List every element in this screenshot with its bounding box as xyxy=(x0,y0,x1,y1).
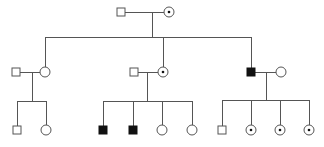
female-unaffected-symbol xyxy=(41,125,51,135)
female-unaffected-symbol xyxy=(40,67,50,77)
male-unaffected-symbol xyxy=(218,126,226,134)
carrier-dot-icon xyxy=(162,71,165,74)
male-unaffected-symbol xyxy=(13,126,21,134)
sibship-gen3-left xyxy=(13,101,51,135)
sibship-gen3-middle xyxy=(99,101,197,135)
carrier-dot-icon xyxy=(168,11,171,14)
couple-gen2-left xyxy=(12,67,50,101)
female-unaffected-symbol xyxy=(187,125,197,135)
carrier-dot-icon xyxy=(308,129,311,132)
male-unaffected-symbol xyxy=(12,68,20,76)
generation-1 xyxy=(117,7,174,37)
male-affected-symbol xyxy=(129,126,137,134)
male-unaffected-symbol xyxy=(117,8,125,16)
carrier-dot-icon xyxy=(250,129,253,132)
male-unaffected-symbol xyxy=(130,68,138,76)
female-unaffected-symbol xyxy=(157,125,167,135)
male-affected-symbol xyxy=(247,68,255,76)
couple-gen2-middle xyxy=(130,67,168,101)
couple-gen2-right xyxy=(247,67,286,100)
sibship-gen2 xyxy=(45,37,251,68)
sibship-gen3-right xyxy=(218,100,314,135)
carrier-dot-icon xyxy=(279,129,282,132)
male-affected-symbol xyxy=(99,126,107,134)
female-unaffected-symbol xyxy=(276,67,286,77)
pedigree-chart xyxy=(0,0,324,147)
